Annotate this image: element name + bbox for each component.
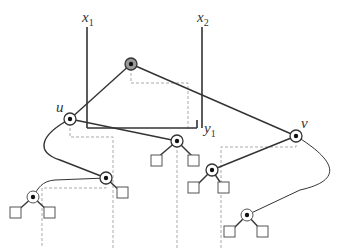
node-n4	[206, 164, 218, 176]
label-y1: y1	[202, 120, 216, 139]
tree-edges	[15, 64, 330, 232]
node-root	[125, 58, 137, 70]
dashed-guides	[42, 68, 296, 248]
node-u	[64, 113, 76, 125]
axis-lines	[87, 27, 202, 128]
node-n3	[27, 191, 39, 203]
label-x1: x1	[81, 9, 94, 28]
node-n5	[241, 209, 253, 221]
label-x2: x2	[196, 9, 209, 28]
label-u: u	[56, 99, 64, 115]
label-v: v	[301, 115, 308, 131]
node-n1	[171, 135, 183, 147]
tree-diagram: x1 x2 y1 u v	[0, 0, 345, 248]
node-v	[290, 130, 302, 142]
leaf-squares	[10, 155, 268, 237]
node-n2	[100, 172, 112, 184]
